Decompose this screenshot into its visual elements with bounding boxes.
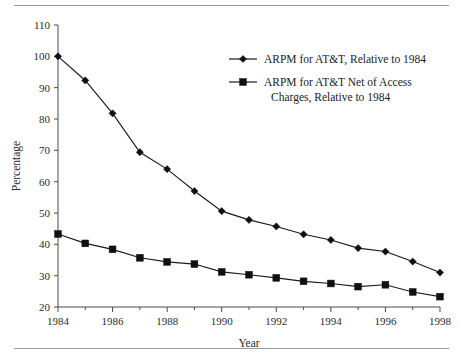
x-axis-ticks: 19841986198819901992199419961998 bbox=[47, 307, 452, 327]
data-point-marker bbox=[409, 289, 416, 296]
x-tick-label: 1984 bbox=[47, 315, 70, 327]
data-point-marker bbox=[191, 261, 198, 268]
data-point-marker bbox=[382, 281, 389, 288]
series-line-1 bbox=[58, 56, 440, 272]
legend-entry-1: ARPM for AT&T, Relative to 1984 bbox=[229, 53, 426, 66]
x-tick-label: 1994 bbox=[320, 315, 343, 327]
data-point-marker bbox=[327, 280, 334, 287]
y-axis-title: Percentage bbox=[10, 141, 23, 191]
y-tick-label: 40 bbox=[39, 238, 51, 250]
x-tick-label: 1988 bbox=[156, 315, 179, 327]
data-point-marker bbox=[136, 254, 143, 261]
data-point-marker bbox=[327, 236, 334, 243]
y-tick-label: 80 bbox=[39, 113, 51, 125]
y-tick-label: 110 bbox=[34, 19, 51, 31]
legend-sample-marker bbox=[239, 55, 246, 62]
x-axis-title: Year bbox=[238, 337, 259, 349]
line-chart-plot: 1101009080706050403020 19841986198819901… bbox=[0, 0, 463, 361]
y-axis-ticks: 1101009080706050403020 bbox=[34, 19, 59, 313]
x-tick-label: 1992 bbox=[265, 315, 287, 327]
x-tick-label: 1996 bbox=[374, 315, 397, 327]
data-point-marker bbox=[136, 149, 143, 156]
y-tick-label: 20 bbox=[39, 301, 51, 313]
data-point-marker bbox=[355, 283, 362, 290]
data-point-marker bbox=[246, 271, 253, 278]
legend-sample-marker bbox=[240, 79, 247, 86]
y-tick-label: 60 bbox=[39, 176, 51, 188]
y-tick-label: 100 bbox=[34, 50, 51, 62]
chart-legend: ARPM for AT&T, Relative to 1984ARPM for … bbox=[229, 53, 426, 104]
y-tick-label: 50 bbox=[39, 207, 51, 219]
data-point-marker bbox=[355, 244, 362, 251]
data-point-marker bbox=[382, 248, 389, 255]
x-tick-label: 1990 bbox=[211, 315, 234, 327]
axes-group bbox=[58, 25, 440, 307]
data-point-marker bbox=[218, 269, 225, 276]
data-point-marker bbox=[409, 258, 416, 265]
legend-entry-2: ARPM for AT&T Net of AccessCharges, Rela… bbox=[229, 76, 412, 104]
data-point-marker bbox=[245, 216, 252, 223]
x-tick-label: 1986 bbox=[102, 315, 125, 327]
data-point-marker bbox=[437, 293, 444, 300]
data-point-marker bbox=[109, 246, 116, 253]
x-tick-label: 1998 bbox=[429, 315, 452, 327]
data-point-marker bbox=[436, 269, 443, 276]
data-point-marker bbox=[300, 278, 307, 285]
data-point-marker bbox=[164, 258, 171, 265]
y-tick-label: 30 bbox=[39, 270, 51, 282]
data-point-marker bbox=[273, 274, 280, 281]
data-point-marker bbox=[300, 231, 307, 238]
legend-label: ARPM for AT&T, Relative to 1984 bbox=[264, 53, 426, 66]
legend-label-continued: Charges, Relative to 1984 bbox=[271, 91, 390, 104]
data-point-marker bbox=[55, 231, 62, 238]
data-point-marker bbox=[273, 223, 280, 230]
y-tick-label: 90 bbox=[39, 82, 51, 94]
chart-figure: 1101009080706050403020 19841986198819901… bbox=[0, 0, 463, 361]
legend-label: ARPM for AT&T Net of Access bbox=[264, 76, 412, 88]
series-2 bbox=[55, 231, 444, 300]
data-point-marker bbox=[82, 240, 89, 247]
y-tick-label: 70 bbox=[39, 144, 51, 156]
